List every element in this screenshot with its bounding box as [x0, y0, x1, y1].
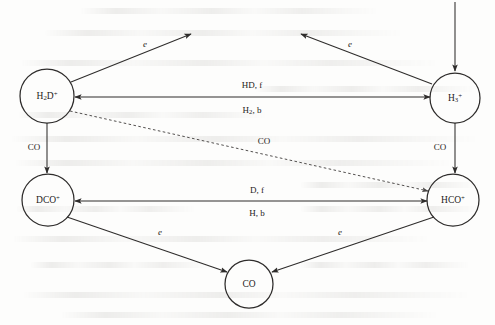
edge-label-h2d-dco-co: CO	[28, 142, 41, 152]
node-label-hco-plus: HCO+	[441, 194, 465, 205]
edge-label-hco-co-electron: e	[338, 227, 342, 237]
reaction-network-svg: H2D+ H3+ DCO+ HCO+ CO e e HD, f H2, b CO…	[0, 0, 495, 325]
edge-label-h3-h2d-backward: H2, b	[243, 105, 262, 115]
edge-dco-electron-to-co	[67, 217, 227, 272]
edge-hco-electron-to-co	[272, 217, 434, 272]
edge-label-h2d-hco-co: CO	[258, 136, 271, 146]
edge-h2d-electron-recombination	[71, 34, 191, 82]
edge-label-h2d-electron: e	[143, 39, 147, 49]
edge-label-dco-co-electron: e	[158, 227, 162, 237]
edge-h2d-to-hco-via-co-dashed	[70, 111, 428, 191]
node-label-dco-plus: DCO+	[36, 194, 60, 205]
node-label-co: CO	[242, 279, 255, 289]
edge-label-hco-dco-forward: D, f	[250, 185, 264, 195]
edge-label-hco-dco-backward: H, b	[249, 208, 265, 218]
edge-label-h3-hco-co: CO	[434, 142, 447, 152]
node-label-h3-plus: H3+	[448, 92, 462, 103]
edge-label-h3-electron: e	[348, 39, 352, 49]
figure-canvas: H2D+ H3+ DCO+ HCO+ CO e e HD, f H2, b CO…	[0, 0, 495, 325]
edge-label-h3-h2d-forward: HD, f	[242, 80, 263, 90]
edge-h3-electron-recombination	[301, 34, 432, 84]
node-label-h2d-plus: H2D+	[37, 90, 58, 101]
